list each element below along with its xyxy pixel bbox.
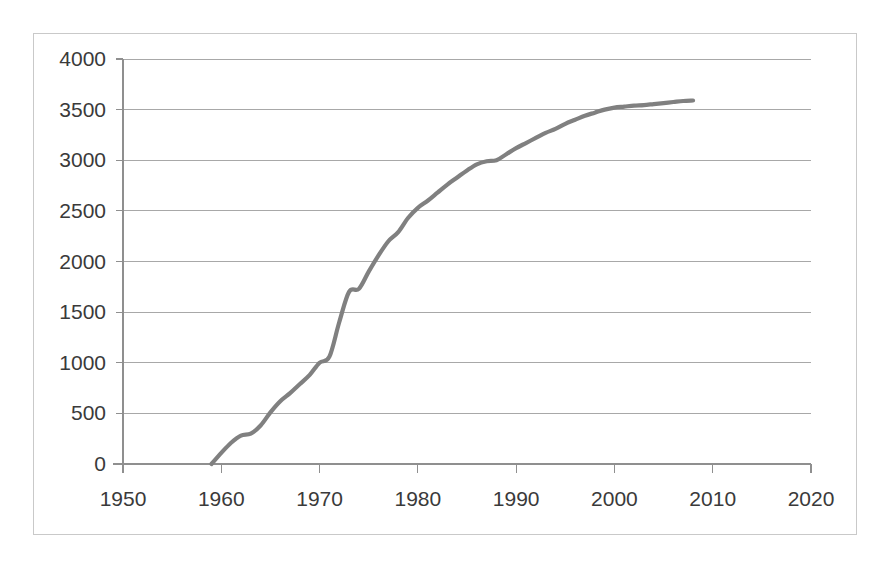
x-tick-label-1950: 1950	[100, 487, 147, 510]
y-tick-label-3500: 3500	[59, 98, 106, 121]
y-tick-label-1000: 1000	[59, 351, 106, 374]
y-tick-label-2500: 2500	[59, 199, 106, 222]
series-line-0	[211, 101, 693, 464]
x-tick-label-2010: 2010	[689, 487, 736, 510]
gridlines-group	[123, 59, 811, 464]
chart-svg: 40003500300025002000150010005000 1950196…	[34, 34, 858, 536]
y-tick-label-4000: 4000	[59, 47, 106, 70]
y-tick-label-2000: 2000	[59, 250, 106, 273]
y-tick-label-3000: 3000	[59, 148, 106, 171]
x-axis-tick-labels: 19501960197019801990200020102020	[100, 487, 835, 510]
y-tick-label-500: 500	[71, 401, 106, 424]
y-axis-tick-labels: 40003500300025002000150010005000	[59, 47, 106, 475]
x-tick-label-1980: 1980	[394, 487, 441, 510]
y-tick-label-1500: 1500	[59, 300, 106, 323]
x-tick-label-2020: 2020	[788, 487, 835, 510]
plot-area: 40003500300025002000150010005000 1950196…	[34, 34, 858, 536]
data-series-group	[211, 101, 693, 464]
axis-group	[113, 59, 811, 473]
x-tick-label-1960: 1960	[198, 487, 245, 510]
x-tick-label-1970: 1970	[296, 487, 343, 510]
chart-figure: 40003500300025002000150010005000 1950196…	[33, 33, 857, 535]
x-tick-label-1990: 1990	[493, 487, 540, 510]
y-tick-label-0: 0	[94, 452, 106, 475]
x-tick-label-2000: 2000	[591, 487, 638, 510]
